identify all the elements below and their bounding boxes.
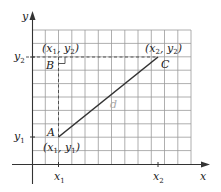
point-B-label: B [45, 59, 54, 72]
right-angle-marker [59, 57, 66, 64]
point-C-label: C [161, 58, 170, 71]
point-A-label: A [46, 126, 55, 139]
point-C-coord: (x2, y2) [145, 42, 182, 56]
x-axis-arrow-icon [201, 162, 210, 168]
tick-y1: y1 [13, 130, 25, 145]
tick-x1: x1 [54, 170, 65, 185]
x-axis-label: x [200, 170, 207, 183]
tick-y2: y2 [13, 50, 25, 65]
distance-label: d [110, 98, 117, 111]
y-axis-label: y [21, 10, 29, 23]
point-B-coord: (x1, y2) [42, 42, 79, 56]
y-axis-arrow-icon [30, 11, 36, 20]
distance-diagram: x y x1 x2 y2 y1 (x1, y2) B (x2, y2) C A … [0, 0, 221, 192]
tick-x2: x2 [153, 170, 164, 185]
point-A-coord: (x1, y1) [43, 141, 80, 155]
